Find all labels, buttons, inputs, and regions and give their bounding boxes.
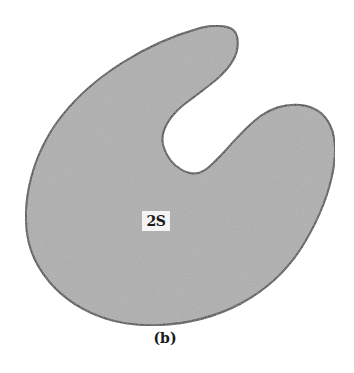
region-label-2s: 2S	[142, 211, 170, 231]
crescent-shape	[26, 26, 335, 325]
crescent-region-diagram	[0, 0, 354, 373]
figure-caption: (b)	[145, 330, 185, 346]
